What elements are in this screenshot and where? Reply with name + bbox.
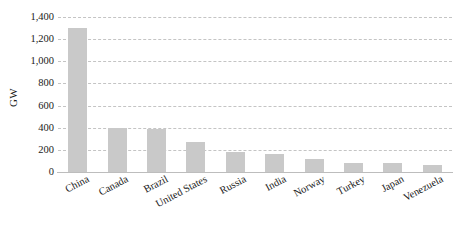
bar: [423, 165, 442, 172]
x-axis-tick-labels: ChinaCanadaBrazilUnited StatesRussiaIndi…: [58, 174, 452, 226]
bar: [305, 159, 324, 172]
y-tick-label: 0: [18, 167, 54, 178]
y-axis-tick-labels: 1,4001,2001,0008006004002000: [18, 0, 54, 180]
bar: [186, 142, 205, 172]
y-tick-label: 200: [18, 145, 54, 156]
y-tick-label: 600: [18, 100, 54, 111]
y-tick-label: 1,200: [18, 34, 54, 45]
bar: [383, 163, 402, 172]
x-axis-line: [57, 172, 453, 173]
bars-container: [58, 17, 452, 172]
bar: [226, 152, 245, 172]
y-tick-label: 400: [18, 122, 54, 133]
bar: [108, 128, 127, 172]
bar: [265, 154, 284, 172]
y-tick-label: 1,000: [18, 56, 54, 67]
y-tick-label: 800: [18, 78, 54, 89]
bar-chart: GW 1,4001,2001,0008006004002000 ChinaCan…: [0, 0, 458, 226]
bar: [147, 129, 166, 172]
bar: [344, 163, 363, 172]
bar: [68, 28, 87, 172]
y-tick-label: 1,400: [18, 12, 54, 23]
